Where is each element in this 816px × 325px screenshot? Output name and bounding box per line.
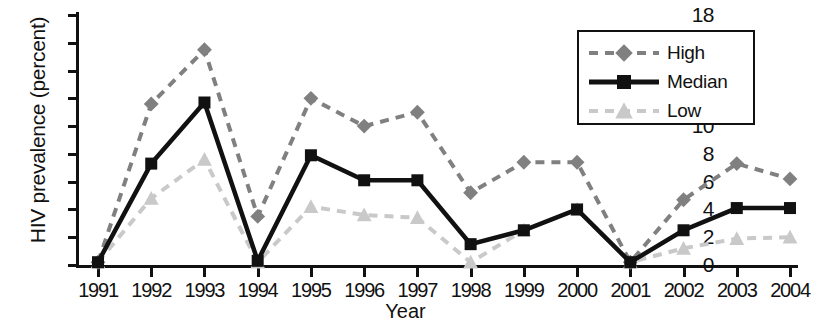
legend-label-low: Low — [667, 100, 701, 122]
x-tick — [789, 268, 792, 277]
data-point-diamond — [463, 185, 478, 200]
data-point-diamond — [783, 171, 798, 186]
data-point-triangle — [197, 152, 212, 166]
data-point-diamond — [570, 155, 585, 170]
data-point-square — [145, 158, 157, 170]
legend-swatch-low — [587, 100, 661, 122]
x-tick — [736, 268, 739, 277]
x-tick — [363, 268, 366, 277]
x-tick — [310, 268, 313, 277]
data-point-square — [624, 256, 636, 268]
chart-legend: High Median Low — [577, 30, 755, 125]
x-tick — [470, 268, 473, 277]
legend-swatch-high — [587, 42, 661, 64]
legend-swatch-median — [587, 71, 661, 93]
x-tick — [203, 268, 206, 277]
x-tick — [416, 268, 419, 277]
x-tick — [523, 268, 526, 277]
data-point-triangle — [144, 191, 159, 205]
y-axis-title: HIV prevalence (percent) — [26, 0, 50, 264]
x-tick-label: 2004 — [759, 280, 816, 300]
data-point-diamond — [250, 209, 265, 224]
data-point-triangle — [463, 255, 478, 269]
data-point-square — [465, 238, 477, 250]
legend-item-median: Median — [587, 67, 753, 96]
data-point-diamond — [357, 119, 372, 134]
data-point-square — [305, 149, 317, 161]
data-point-square — [92, 256, 104, 268]
data-point-diamond — [197, 42, 212, 57]
data-point-square — [678, 224, 690, 236]
data-point-square — [617, 75, 631, 89]
x-tick — [683, 268, 686, 277]
data-point-square — [731, 202, 743, 214]
data-point-square — [518, 224, 530, 236]
data-point-square — [784, 202, 796, 214]
x-tick — [150, 268, 153, 277]
x-tick — [97, 268, 100, 277]
data-point-triangle — [410, 210, 425, 224]
x-tick — [257, 268, 260, 277]
data-point-diamond — [303, 91, 318, 106]
data-point-triangle — [615, 102, 633, 118]
x-tick — [629, 268, 632, 277]
data-point-square — [411, 174, 423, 186]
legend-item-low: Low — [587, 96, 753, 125]
legend-item-high: High — [587, 38, 753, 67]
legend-label-high: High — [667, 42, 705, 64]
data-point-triangle — [303, 199, 318, 213]
x-tick — [576, 268, 579, 277]
x-axis-title: Year — [0, 300, 811, 323]
data-point-diamond — [516, 155, 531, 170]
data-point-diamond — [615, 44, 633, 62]
data-point-diamond — [144, 96, 159, 111]
data-point-square — [198, 97, 210, 109]
data-point-square — [252, 255, 264, 267]
data-point-diamond — [410, 105, 425, 120]
data-point-square — [571, 203, 583, 215]
legend-label-median: Median — [667, 71, 728, 93]
data-point-square — [358, 174, 370, 186]
